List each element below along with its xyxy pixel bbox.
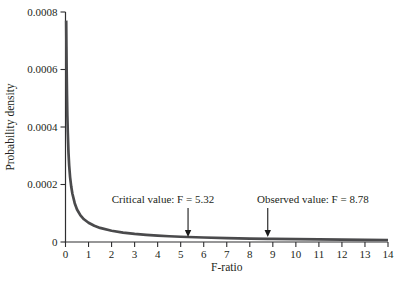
y-tick-label: 0.0004 <box>27 121 58 133</box>
x-tick-label: 2 <box>109 248 115 260</box>
x-tick-label: 13 <box>359 248 371 260</box>
annotation-layer: Critical value: F = 5.32 Observed value:… <box>112 193 369 237</box>
x-tick-label: 10 <box>290 248 302 260</box>
density-curve <box>66 21 388 240</box>
y-tick-label: 0.0002 <box>27 178 57 190</box>
x-tick-label: 5 <box>178 248 184 260</box>
x-tick-label: 8 <box>247 248 253 260</box>
y-axis-label: Probability density <box>4 83 17 170</box>
observed-value-arrow-head <box>265 230 271 237</box>
chart-canvas: 00.00020.00040.00060.0008012345678910111… <box>0 0 398 282</box>
x-tick-label: 0 <box>63 248 69 260</box>
x-tick-label: 12 <box>336 248 347 260</box>
x-tick-label: 7 <box>224 248 230 260</box>
x-axis-label: F-ratio <box>211 261 243 273</box>
x-tick-label: 1 <box>86 248 92 260</box>
x-tick-label: 9 <box>270 248 276 260</box>
x-tick-label: 14 <box>383 248 395 260</box>
curve-layer <box>66 21 388 240</box>
x-tick-label: 6 <box>201 248 207 260</box>
y-tick-label: 0 <box>52 236 58 248</box>
f-distribution-figure: 00.00020.00040.00060.0008012345678910111… <box>0 0 398 282</box>
critical-value-annotation-label: Critical value: F = 5.32 <box>112 193 214 205</box>
observed-value-annotation-label: Observed value: F = 8.78 <box>257 193 369 205</box>
axes-layer: 00.00020.00040.00060.0008012345678910111… <box>27 6 394 261</box>
y-tick-label: 0.0008 <box>27 6 58 18</box>
x-tick-label: 11 <box>314 248 325 260</box>
x-tick-label: 4 <box>155 248 161 260</box>
x-tick-label: 3 <box>132 248 138 260</box>
y-tick-label: 0.0006 <box>27 63 58 75</box>
